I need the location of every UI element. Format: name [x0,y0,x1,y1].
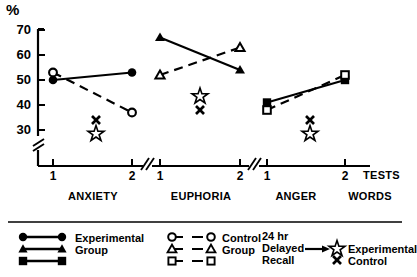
legend-label-recall-title: 24 hr Delayed Recall [262,230,304,266]
legend-key-control-circle [168,233,215,241]
legend-label-recall-x: Control [348,255,387,267]
legend-label-control-line1: Control [222,232,261,244]
legend-key-experimental-triangle [18,244,66,252]
legend-label-experimental-line1: Experimental [75,232,144,244]
legend-label-control-line2: Group [222,244,255,256]
legend-key-experimental-square [19,257,66,265]
legend-key-recall-x [333,256,341,264]
legend-label-control: Control Group [222,232,261,256]
recall-arrow-icon [305,245,330,252]
legend-key-recall-star [329,241,345,256]
legend-key-experimental-circle [19,233,66,241]
legend-key-control-triangle [168,245,216,253]
legend-label-recall-line2: Delayed [262,242,304,254]
legend-key-control-square [168,257,214,264]
legend-label-recall-line1: 24 hr [262,230,288,242]
legend-label-recall-line3: Recall [262,254,294,266]
legend-label-experimental: Experimental Group [75,232,144,256]
legend-label-experimental-line2: Group [75,244,108,256]
legend-label-recall-star: Experimental [348,243,417,255]
